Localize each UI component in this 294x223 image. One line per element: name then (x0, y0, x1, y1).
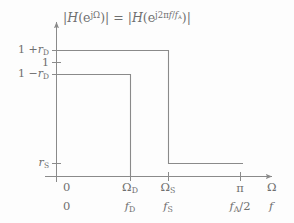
x-axis-name-f-text: f (269, 199, 273, 213)
x-label-pi-main: π (236, 181, 244, 195)
lower-tolerance-bound (57, 75, 131, 177)
title-bar-close-1: | (105, 10, 109, 25)
x-label-pi: π (236, 183, 244, 195)
upper-tolerance-bound (57, 51, 244, 164)
x-axis-name-omega: Ω (267, 182, 277, 194)
plot-title: |H(ejΩ)| = |H(ej2πf/fA)| (63, 11, 191, 25)
title-exp-2pi: 2π (158, 10, 169, 20)
y-label-one-minus-rd: 1 −rD (0, 68, 49, 80)
figure-canvas: |H(ejΩ)| = |H(ej2πf/fA)| 1 +rD 1 1 −rD r… (0, 0, 294, 223)
x-label-omega-d: ΩD (122, 182, 138, 195)
title-equals: = (113, 10, 123, 25)
y-label-rs: rS (0, 157, 49, 169)
title-H-1: H (67, 10, 78, 25)
x-label-zero-f-main: 0 (63, 199, 70, 213)
x-label-zero-omega-main: 0 (63, 180, 70, 194)
x-label-zero-f: 0 (63, 201, 70, 213)
tolerance-scheme-plot (0, 0, 294, 223)
x-label-fa-half-tail: /2 (239, 199, 250, 213)
title-H-2: H (132, 10, 143, 25)
y-label-one-main: 1 (42, 56, 49, 69)
x-label-zero-omega: 0 (63, 182, 70, 194)
title-e-2: e (148, 10, 155, 25)
y-label-one-plus-rd-main: 1 + (18, 43, 38, 56)
x-label-f-s: fS (163, 201, 173, 214)
x-axis-name-omega-text: Ω (267, 180, 277, 194)
x-label-f-s-sub: S (167, 205, 172, 214)
x-label-omega-s-main: Ω (161, 180, 171, 194)
x-label-omega-s: ΩS (161, 182, 176, 195)
x-axis-name-f: f (269, 201, 273, 213)
x-label-f-d: fD (125, 201, 136, 214)
y-label-one-minus-rd-sub: D (43, 72, 49, 81)
x-label-omega-s-sub: S (170, 186, 175, 195)
x-label-f-d-sub: D (129, 205, 135, 214)
y-label-rs-sub: S (44, 161, 49, 170)
y-label-one-plus-rd: 1 +rD (0, 44, 49, 56)
title-bar-close-2: | (187, 10, 191, 25)
x-label-omega-d-sub: D (132, 186, 138, 195)
x-label-omega-d-main: Ω (122, 180, 132, 194)
y-label-one-minus-rd-main: 1 − (18, 67, 38, 80)
y-label-one: 1 (0, 57, 49, 68)
x-label-fa-half: fA/2 (229, 201, 250, 214)
